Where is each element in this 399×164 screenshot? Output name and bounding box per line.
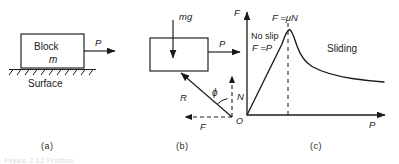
mass-label-a: m <box>49 55 57 65</box>
peak-label-c: F =μN <box>272 13 298 23</box>
force-label-f-b: F <box>200 122 206 132</box>
panel-b-linework <box>150 20 240 117</box>
caption-c: (c) <box>310 141 322 151</box>
force-label-p-b: P <box>219 39 225 49</box>
block-label-a: Block <box>34 42 58 52</box>
axis-label-f-c: F <box>234 8 240 18</box>
angle-arc-phi-b <box>218 99 228 104</box>
caption-b: (b) <box>176 141 189 151</box>
force-label-p-a: P <box>95 38 101 48</box>
origin-label-c: O <box>236 117 243 126</box>
surface-label-a: Surface <box>28 79 62 89</box>
cut-off-figure-caption: Figure 2.12 Friction <box>4 156 154 164</box>
force-arrow-r-b <box>181 73 232 117</box>
sliding-label-c: Sliding <box>327 44 357 54</box>
force-label-r-b: R <box>180 93 187 103</box>
panel-c-linework <box>247 12 385 115</box>
weight-label-mg-b: mg <box>179 12 192 22</box>
friction-figure: Block m P Surface (a) mg P R ϕ N F (b) F… <box>0 0 399 164</box>
no-slip-label-c: No slip <box>251 32 279 41</box>
ground-hatching-a <box>9 70 93 76</box>
angle-label-phi-b: ϕ <box>212 88 218 98</box>
no-slip-equation-c: F =P <box>252 43 272 53</box>
force-label-n-b: N <box>237 92 244 102</box>
caption-a: (a) <box>41 141 54 151</box>
block-rect-b <box>150 38 208 71</box>
axis-label-p-c: P <box>369 120 375 130</box>
